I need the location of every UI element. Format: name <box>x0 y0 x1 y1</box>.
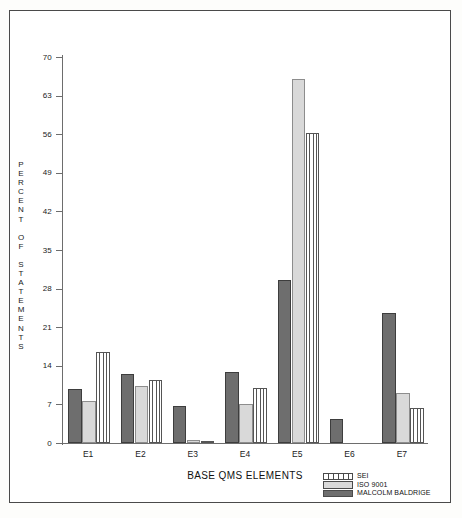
chart-legend: SEIISO 9001MALCOLM BALDRIGE <box>323 472 448 498</box>
bar-e6-mb <box>330 419 344 443</box>
x-axis-tick-label-e6: E6 <box>330 449 370 459</box>
y-axis-title-letter: A <box>14 278 28 287</box>
bar-e7-sei <box>410 408 424 443</box>
y-axis-title-letter: F <box>14 242 28 251</box>
bar-group-e7 <box>382 57 424 443</box>
legend-label: SEI <box>357 472 369 481</box>
bar-e2-sei <box>149 380 163 443</box>
y-axis-tick-label: 35 <box>30 246 52 255</box>
x-axis-line <box>62 443 428 444</box>
y-axis-tick-label: 0 <box>30 439 52 448</box>
legend-item-sei: SEI <box>323 472 448 481</box>
x-axis-tick-label-e4: E4 <box>225 449 265 459</box>
legend-swatch-mb <box>323 490 353 498</box>
y-axis-title-letter <box>14 251 28 260</box>
legend-label: ISO 9001 <box>357 481 387 490</box>
bar-e7-iso <box>396 393 410 443</box>
bar-group-e6 <box>330 57 372 443</box>
y-axis-tick-label: 7 <box>30 400 52 409</box>
bar-group-e1 <box>68 57 110 443</box>
bar-e3-sei <box>201 441 215 443</box>
y-axis-title-letter: M <box>14 305 28 314</box>
y-axis-title-letter: T <box>14 333 28 342</box>
bar-e5-iso <box>292 79 306 443</box>
bar-e1-iso <box>82 401 96 443</box>
legend-item-iso: ISO 9001 <box>323 481 448 490</box>
bar-e3-mb <box>173 406 187 443</box>
y-axis-title-letter: N <box>14 324 28 333</box>
y-axis-tick-label: 56 <box>30 130 52 139</box>
x-axis-tick-label-e2: E2 <box>120 449 160 459</box>
y-axis-title-letter: E <box>14 314 28 323</box>
x-axis-tick-label-e5: E5 <box>277 449 317 459</box>
bar-e3-iso <box>187 440 201 443</box>
y-axis-title-letter: S <box>14 342 28 351</box>
y-axis-title-letter: E <box>14 296 28 305</box>
bar-e4-sei <box>253 388 267 443</box>
x-axis-tick-label-e3: E3 <box>173 449 213 459</box>
bar-e5-mb <box>278 280 292 443</box>
y-axis-tick-label: 21 <box>30 323 52 332</box>
y-axis-title-letter: T <box>14 287 28 296</box>
legend-swatch-iso <box>323 481 353 489</box>
y-axis-tick-label: 42 <box>30 207 52 216</box>
bar-e1-mb <box>68 389 82 443</box>
bar-e2-mb <box>121 374 135 443</box>
legend-item-mb: MALCOLM BALDRIGE <box>323 489 448 498</box>
y-axis-tick-label: 63 <box>30 91 52 100</box>
legend-label: MALCOLM BALDRIGE <box>357 489 431 498</box>
y-axis-title-letter: T <box>14 215 28 224</box>
y-axis-title-letter: C <box>14 187 28 196</box>
bar-e7-mb <box>382 313 396 443</box>
legend-swatch-sei <box>323 473 353 481</box>
y-axis-title-letter: E <box>14 169 28 178</box>
bar-e4-iso <box>239 404 253 443</box>
y-axis-tick-label: 70 <box>30 53 52 62</box>
x-axis-tick-label-e1: E1 <box>68 449 108 459</box>
bar-group-e2 <box>121 57 163 443</box>
y-axis-tick-label: 28 <box>30 284 52 293</box>
plot-area <box>62 57 428 443</box>
y-axis-title-letter: E <box>14 196 28 205</box>
bar-e1-sei <box>96 352 110 443</box>
y-axis-title-letter: S <box>14 260 28 269</box>
y-axis-title-letter: R <box>14 178 28 187</box>
bar-group-e5 <box>278 57 320 443</box>
y-axis-tick-label: 49 <box>30 168 52 177</box>
x-axis-tick-label-e7: E7 <box>382 449 422 459</box>
y-axis-title-letter: P <box>14 160 28 169</box>
y-axis-title-letter: O <box>14 233 28 242</box>
y-axis-tick-label: 14 <box>30 361 52 370</box>
bar-e2-iso <box>135 386 149 443</box>
y-axis-title-letter: T <box>14 269 28 278</box>
chart-page: PERCENT OF STATEMENTS 071421283542495663… <box>0 0 462 518</box>
bar-e5-sei <box>306 133 320 443</box>
y-axis-title: PERCENT OF STATEMENTS <box>14 160 28 351</box>
y-axis-title-letter: N <box>14 205 28 214</box>
bar-group-e3 <box>173 57 215 443</box>
y-axis-tick <box>56 443 62 444</box>
bar-group-e4 <box>225 57 267 443</box>
bar-e4-mb <box>225 372 239 443</box>
y-axis-title-letter <box>14 224 28 233</box>
